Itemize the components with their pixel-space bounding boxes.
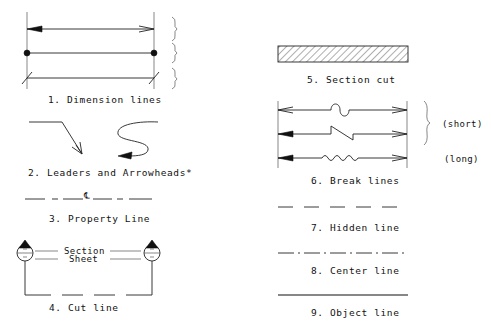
break-variant-short: (short) bbox=[442, 119, 483, 129]
filled-arrowhead-icon bbox=[278, 131, 293, 137]
line-conventions-diagram: 1. Dimension lines 2. Leaders and Arrowh… bbox=[0, 0, 491, 329]
property-line-group: ℄ 3. Property Line bbox=[25, 191, 152, 224]
item-label-section-cut: 5. Section cut bbox=[307, 74, 395, 85]
hatched-section-rect bbox=[278, 46, 408, 62]
leaders-arrowheads-group: 2. Leaders and Arrowheads* bbox=[28, 122, 192, 178]
object-line-group: 9. Object line bbox=[278, 295, 408, 318]
item-label-leaders: 2. Leaders and Arrowheads* bbox=[28, 167, 192, 178]
cut-line-group: Section Sheet 4. Cut line bbox=[17, 240, 160, 313]
filled-arrowhead-icon bbox=[27, 26, 42, 32]
item-label-center-line: 8. Center line bbox=[311, 265, 399, 276]
item-label-object-line: 9. Object line bbox=[311, 307, 399, 318]
cut-line-sheet-label: Sheet bbox=[69, 254, 98, 264]
filled-arrowhead-icon bbox=[278, 155, 293, 161]
brace-icon bbox=[424, 101, 430, 145]
item-label-break-lines: 6. Break lines bbox=[311, 175, 399, 186]
item-label-cut-line: 4. Cut line bbox=[49, 302, 119, 313]
dimension-line-arrows bbox=[27, 26, 154, 32]
curved-leader bbox=[118, 122, 158, 159]
break-line-short-curve bbox=[278, 104, 407, 116]
property-line-symbol: ℄ bbox=[83, 191, 90, 201]
straight-leader bbox=[29, 122, 82, 154]
filled-arrowhead-icon bbox=[118, 152, 132, 159]
dot-terminator-icon bbox=[24, 50, 30, 56]
break-lines-group: (short) (long) 6. Break lines bbox=[278, 101, 483, 186]
direction-arrow-icon bbox=[19, 240, 31, 248]
item-label-hidden-line: 7. Hidden line bbox=[311, 222, 399, 233]
direction-arrow-icon bbox=[146, 240, 158, 248]
section-cut-group: 5. Section cut bbox=[278, 46, 408, 85]
section-bubble-right bbox=[144, 240, 160, 261]
item-label-property-line: 3. Property Line bbox=[49, 213, 150, 224]
dimension-line-ticks bbox=[22, 72, 159, 84]
dimension-line-dots bbox=[24, 50, 157, 56]
dimension-lines-group: 1. Dimension lines bbox=[22, 12, 177, 105]
center-line-group: 8. Center line bbox=[278, 253, 408, 276]
brace-icons bbox=[172, 17, 177, 89]
break-variant-long: (long) bbox=[444, 154, 479, 164]
break-line-short-z bbox=[278, 126, 407, 140]
section-bubble-left bbox=[17, 240, 33, 261]
break-line-long-wave bbox=[278, 155, 407, 161]
item-label-dimension-lines: 1. Dimension lines bbox=[48, 94, 162, 105]
hidden-line-group: 7. Hidden line bbox=[278, 207, 408, 233]
